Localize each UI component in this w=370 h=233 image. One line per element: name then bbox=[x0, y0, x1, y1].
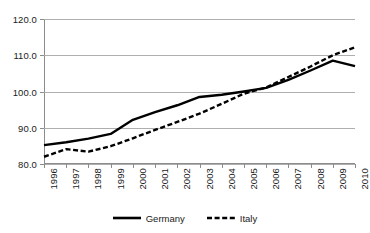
x-axis-tick-label: 2007 bbox=[292, 168, 303, 190]
y-axis-tick-label: 100.0 bbox=[13, 86, 37, 97]
line-chart: 80.090.0100.0110.0120.0 1996199719981999… bbox=[0, 0, 370, 233]
legend-swatch-dashed-icon bbox=[207, 213, 235, 223]
x-axis-tick-label: 2001 bbox=[159, 168, 170, 190]
x-axis-tick-label: 2006 bbox=[270, 168, 281, 190]
x-axis-tick-label: 1997 bbox=[70, 168, 81, 190]
series-line-germany bbox=[44, 61, 355, 145]
x-axis-tick-label: 2009 bbox=[337, 168, 348, 190]
x-axis-tick-label: 2005 bbox=[248, 168, 259, 190]
chart-legend: Germany Italy bbox=[0, 209, 370, 227]
x-axis-tick bbox=[355, 164, 356, 168]
series-lines bbox=[44, 19, 355, 164]
legend-item-germany: Germany bbox=[113, 213, 185, 224]
x-axis-tick-label: 2010 bbox=[359, 168, 370, 190]
x-axis-tick-label: 2004 bbox=[226, 168, 237, 190]
y-axis-labels: 80.090.0100.0110.0120.0 bbox=[0, 0, 44, 233]
y-axis-tick-label: 90.0 bbox=[18, 122, 37, 133]
y-axis-tick-label: 120.0 bbox=[13, 14, 37, 25]
x-axis-tick-label: 2002 bbox=[181, 168, 192, 190]
legend-label-italy: Italy bbox=[240, 213, 257, 224]
legend-swatch-solid-icon bbox=[113, 213, 141, 223]
x-axis-tick-label: 2000 bbox=[137, 168, 148, 190]
x-axis-tick-label: 2003 bbox=[204, 168, 215, 190]
y-axis-tick-label: 110.0 bbox=[13, 50, 37, 61]
series-line-italy bbox=[44, 47, 355, 156]
x-axis-tick-label: 2008 bbox=[315, 168, 326, 190]
x-axis-tick-label: 1996 bbox=[48, 168, 59, 190]
x-axis-tick-label: 1998 bbox=[92, 168, 103, 190]
plot-area bbox=[44, 19, 355, 164]
x-axis-labels: 1996199719981999200020012002200320042005… bbox=[44, 168, 355, 208]
legend-label-germany: Germany bbox=[146, 213, 185, 224]
x-axis-tick-label: 1999 bbox=[115, 168, 126, 190]
y-axis-tick-label: 80.0 bbox=[18, 159, 37, 170]
legend-item-italy: Italy bbox=[207, 213, 257, 224]
